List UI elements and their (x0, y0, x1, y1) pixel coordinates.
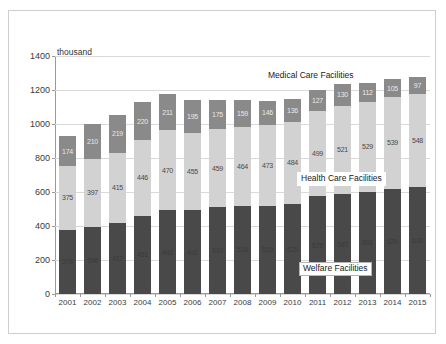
bar-segment[interactable]: 493 (159, 210, 176, 294)
y-axis-tick-mark (52, 260, 55, 261)
bar-segment[interactable]: 459 (209, 129, 226, 207)
x-axis-tick-label: 2002 (84, 298, 102, 307)
y-axis-tick-mark (52, 90, 55, 91)
bar-stack[interactable]: 4174152192003 (109, 115, 126, 294)
bar-stack[interactable]: 3963972102002 (84, 124, 101, 294)
bar-segment[interactable]: 97 (409, 77, 426, 93)
bar-stack[interactable]: 4924551952006 (184, 100, 201, 294)
bar-segment[interactable]: 112 (359, 83, 376, 102)
bar-segment[interactable]: 378 (59, 230, 76, 294)
bar-segment-value: 459 (212, 165, 223, 172)
bar-segment[interactable]: 397 (84, 159, 101, 226)
y-axis-tick-label: 800 (35, 153, 50, 163)
y-axis-tick-label: 1400 (30, 51, 50, 61)
x-axis-tick-mark (55, 294, 56, 297)
bar-segment-value: 417 (112, 255, 123, 262)
bar-segment-value: 455 (187, 168, 198, 175)
y-axis-tick-label: 0 (45, 289, 50, 299)
bar-segment-value: 587 (337, 241, 348, 248)
bar-segment[interactable]: 620 (384, 189, 401, 294)
bar-stack[interactable]: 5194731462009 (259, 101, 276, 294)
bar-segment[interactable]: 417 (109, 223, 126, 294)
x-axis-tick-label: 2001 (59, 298, 77, 307)
bar-segment[interactable]: 220 (134, 102, 151, 139)
bar-segment[interactable]: 529 (284, 204, 301, 294)
bar-segment[interactable]: 539 (384, 97, 401, 189)
bar-segment-value: 415 (112, 184, 123, 191)
bar-segment[interactable]: 519 (234, 206, 251, 294)
y-axis-tick-mark (52, 124, 55, 125)
gridline (55, 56, 430, 57)
x-axis-tick-mark (230, 294, 231, 297)
bar-segment[interactable]: 210 (84, 124, 101, 160)
bar-segment-value: 112 (362, 89, 373, 96)
bar-segment[interactable]: 415 (109, 153, 126, 224)
x-axis-tick-mark (155, 294, 156, 297)
bar-stack[interactable]: 4614462202004 (134, 102, 151, 294)
bar-segment[interactable]: 105 (384, 79, 401, 97)
bar-segment[interactable]: 146 (259, 101, 276, 126)
bar-segment-value: 510 (212, 247, 223, 254)
bar-segment-value: 529 (287, 246, 298, 253)
bar-segment[interactable]: 473 (259, 125, 276, 205)
bar-segment-value: 378 (62, 258, 73, 265)
bar-segment[interactable]: 461 (134, 216, 151, 294)
x-axis-tick-label: 2009 (259, 298, 277, 307)
bar-segment[interactable]: 510 (209, 207, 226, 294)
bar-segment-value: 159 (237, 110, 248, 117)
bar-stack[interactable]: 6205391052014 (384, 79, 401, 294)
bar-segment[interactable]: 396 (84, 227, 101, 294)
bar-segment[interactable]: 136 (284, 99, 301, 122)
bar-segment[interactable]: 211 (159, 94, 176, 130)
x-axis-tick-label: 2008 (234, 298, 252, 307)
bar-segment-value: 97 (414, 82, 421, 89)
bar-segment[interactable]: 464 (234, 127, 251, 206)
annotation-medical-care-facilities: Medical Care Facilities (265, 70, 357, 82)
x-axis-tick-mark (130, 294, 131, 297)
bar-segment[interactable]: 127 (309, 90, 326, 112)
chart-frame: thousand 0200400600800100012001400 37837… (8, 10, 436, 334)
x-axis-tick-label: 2012 (334, 298, 352, 307)
bar-segment[interactable]: 470 (159, 130, 176, 210)
bar-segment[interactable]: 375 (59, 166, 76, 230)
bar-segment[interactable]: 130 (334, 84, 351, 106)
y-axis-tick-label: 200 (35, 255, 50, 265)
bar-segment[interactable]: 446 (134, 140, 151, 216)
bar-segment[interactable]: 159 (234, 100, 251, 127)
x-axis-tick-mark (280, 294, 281, 297)
bar-segment-value: 630 (412, 237, 423, 244)
bar-segment-value: 539 (387, 139, 398, 146)
x-axis-tick-label: 2004 (134, 298, 152, 307)
bar-segment[interactable]: 601 (359, 192, 376, 294)
bar-segment[interactable]: 175 (209, 100, 226, 130)
x-axis-tick-mark (105, 294, 106, 297)
bar-segment[interactable]: 195 (184, 100, 201, 133)
bar-segment-value: 519 (262, 246, 273, 253)
bar-segment[interactable]: 492 (184, 210, 201, 294)
bar-segment[interactable]: 575 (309, 196, 326, 294)
bar-stack[interactable]: 3783751742001 (59, 136, 76, 294)
bar-stack[interactable]: 630548972015 (409, 77, 426, 294)
bar-segment[interactable]: 548 (409, 94, 426, 187)
bar-segment-value: 464 (237, 163, 248, 170)
bar-segment[interactable]: 174 (59, 136, 76, 166)
x-axis-tick-mark (330, 294, 331, 297)
bar-segment-value: 461 (137, 251, 148, 258)
x-axis-tick-mark (380, 294, 381, 297)
bar-segment-value: 620 (387, 238, 398, 245)
bar-stack[interactable]: 5194641592008 (234, 100, 251, 294)
bar-segment[interactable]: 587 (334, 194, 351, 294)
x-axis-tick-label: 2013 (359, 298, 377, 307)
bar-segment-value: 575 (312, 242, 323, 249)
x-axis-tick-label: 2005 (159, 298, 177, 307)
bar-stack[interactable]: 4934702112005 (159, 94, 176, 294)
bar-segment-value: 136 (287, 107, 298, 114)
annotation-welfare-facilities: Welfare Facilities (299, 262, 372, 276)
bar-segment[interactable]: 519 (259, 206, 276, 294)
bar-segment[interactable]: 219 (109, 115, 126, 152)
bar-stack[interactable]: 5104591752007 (209, 100, 226, 294)
bar-segment[interactable]: 484 (284, 122, 301, 204)
y-axis-tick-mark (52, 192, 55, 193)
bar-segment[interactable]: 455 (184, 133, 201, 210)
bar-segment[interactable]: 630 (409, 187, 426, 294)
